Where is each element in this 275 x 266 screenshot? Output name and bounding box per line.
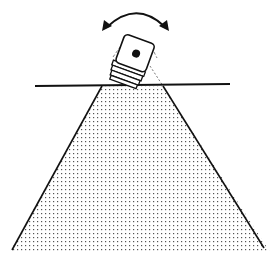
rotation-arrow-icon <box>102 13 169 31</box>
caption-text <box>0 258 275 266</box>
field-of-view-cone <box>10 66 270 252</box>
camera-fov-diagram <box>0 0 275 266</box>
camera-icon <box>107 33 155 90</box>
